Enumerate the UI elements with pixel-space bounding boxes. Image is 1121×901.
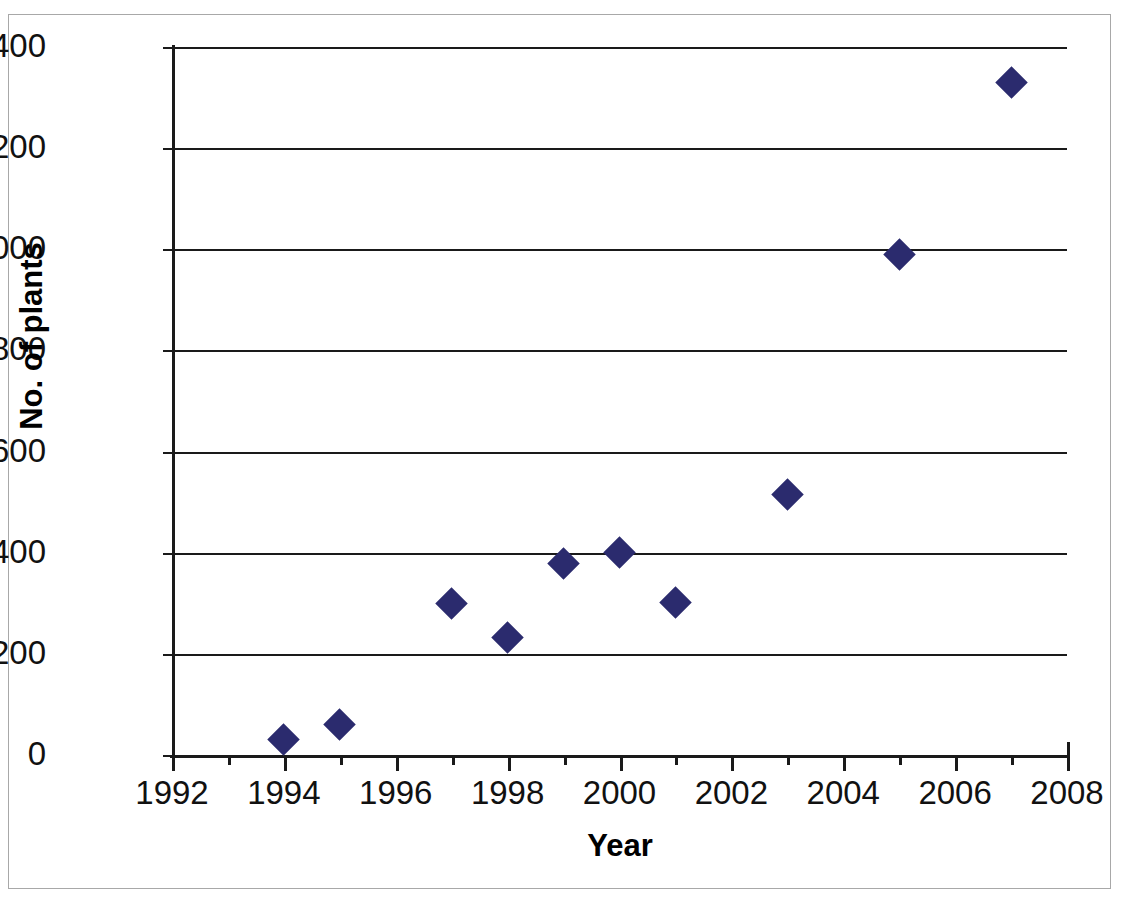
y-tick-1000 <box>163 249 172 251</box>
gridline-y-1000 <box>172 249 1067 251</box>
y-tick-400 <box>163 553 172 555</box>
y-tick-label-0: 0 <box>0 737 46 770</box>
gridline-y-1200 <box>172 148 1067 150</box>
y-tick-200 <box>163 654 172 656</box>
x-tick-minor-1999 <box>564 755 567 765</box>
y-tick-1400 <box>163 47 172 49</box>
x-tick-2000 <box>620 755 623 771</box>
x-tick-1992 <box>172 755 175 771</box>
x-axis-title: Year <box>420 828 820 864</box>
figure-scatter-plants-by-year: 0200400600800100012001400 19921994199619… <box>0 0 1121 901</box>
x-tick-2004 <box>843 755 846 771</box>
y-tick-800 <box>163 350 172 352</box>
x-tick-minor-2007 <box>1011 755 1014 765</box>
x-tick-1994 <box>284 755 287 771</box>
gridline-y-800 <box>172 350 1067 352</box>
data-point-2000 <box>603 536 636 569</box>
x-tick-minor-2001 <box>675 755 678 765</box>
data-point-2003 <box>771 478 804 511</box>
gridline-y-600 <box>172 452 1067 454</box>
data-point-2001 <box>659 586 692 619</box>
y-tick-600 <box>163 452 172 454</box>
y-tick-0 <box>163 755 172 757</box>
x-tick-minor-1995 <box>340 755 343 765</box>
data-point-1995 <box>324 708 357 741</box>
gridline-y-200 <box>172 654 1067 656</box>
y-tick-label-1400: 1400 <box>0 29 46 62</box>
x-tick-minor-1997 <box>452 755 455 765</box>
x-axis-right-cap <box>1067 742 1070 756</box>
plot-area <box>172 47 1067 755</box>
y-tick-label-1200: 1200 <box>0 130 46 163</box>
data-point-1994 <box>268 724 301 757</box>
y-tick-label-400: 400 <box>0 535 46 568</box>
x-tick-2002 <box>731 755 734 771</box>
x-tick-2008 <box>1067 755 1070 771</box>
data-point-1997 <box>435 587 468 620</box>
y-axis-title: No. of plants <box>14 186 50 486</box>
x-tick-label-2008: 2008 <box>977 776 1121 809</box>
x-tick-2006 <box>955 755 958 771</box>
y-tick-label-200: 200 <box>0 636 46 669</box>
data-point-1998 <box>491 621 524 654</box>
x-tick-minor-2003 <box>787 755 790 765</box>
data-point-2005 <box>883 238 916 271</box>
gridline-y-1400 <box>172 47 1067 49</box>
x-tick-minor-1993 <box>228 755 231 765</box>
data-point-2007 <box>995 66 1028 99</box>
y-tick-1200 <box>163 148 172 150</box>
x-tick-1996 <box>396 755 399 771</box>
x-tick-1998 <box>508 755 511 771</box>
plot-wrapper: 0200400600800100012001400 19921994199619… <box>0 0 1121 901</box>
x-tick-minor-2005 <box>899 755 902 765</box>
